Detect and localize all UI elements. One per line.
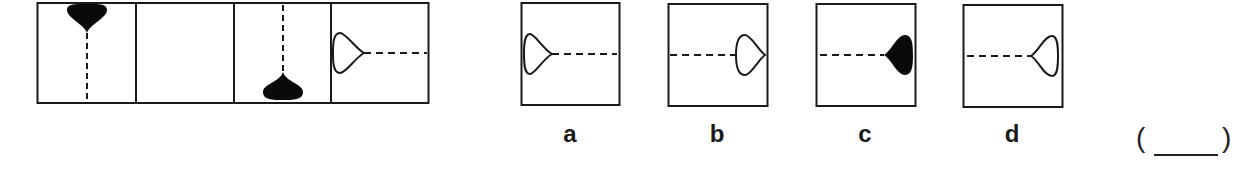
option-d-label: d [992, 122, 1032, 146]
white-teardrop-icon [670, 35, 765, 75]
option-d[interactable] [961, 0, 1065, 110]
white-teardrop-icon [524, 34, 617, 74]
sequence-cell-4-white-teardrop-icon [333, 33, 427, 73]
option-c-label: c [845, 122, 885, 146]
option-c-figure [814, 0, 918, 110]
white-teardrop-icon [967, 36, 1058, 76]
sequence-strip [0, 0, 440, 110]
answer-open-paren: ( [1136, 124, 1145, 152]
black-teardrop-icon [820, 35, 913, 75]
answer-input-line[interactable] [1154, 132, 1218, 156]
option-d-figure [961, 0, 1065, 110]
sequence-cell-2-empty [137, 4, 233, 102]
sequence-cell-1-black-teardrop-icon [67, 4, 107, 101]
option-b-label: b [697, 122, 737, 146]
option-b[interactable] [666, 0, 770, 110]
option-a-label: a [550, 122, 590, 146]
option-a-figure [519, 0, 623, 110]
sequence-cell-3-black-teardrop-icon [263, 5, 303, 100]
option-c[interactable] [814, 0, 918, 110]
answer-blank[interactable]: ( ) [1134, 122, 1234, 162]
answer-close-paren: ) [1222, 124, 1231, 152]
option-a[interactable] [519, 0, 623, 110]
option-b-figure [666, 0, 770, 110]
